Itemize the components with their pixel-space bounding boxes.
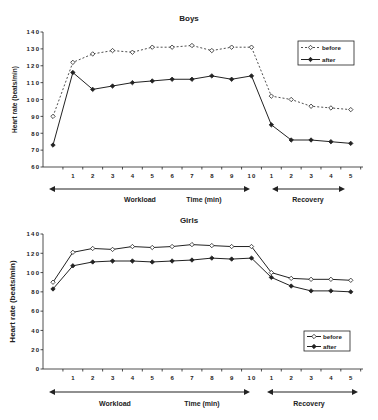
y-tick-label: 6 0 <box>31 164 40 170</box>
x-tick-label: 2 <box>290 375 294 381</box>
y-tick-label: 4 0 <box>31 328 40 334</box>
y-tick-label: 8 0 <box>31 131 40 137</box>
y-axis-label: Heart rate (beats/min) <box>8 260 17 343</box>
x-tick-label: 2 <box>91 173 95 179</box>
x-tick-label: 8 <box>210 375 214 381</box>
y-tick-label: 1 0 0 <box>27 97 40 103</box>
x-tick-label: 3 <box>309 375 313 381</box>
x-tick-label: 5 <box>349 375 353 381</box>
x-tick-label: 4 <box>131 173 135 179</box>
x-tick-label: 1 <box>270 375 274 381</box>
series-after <box>51 256 353 294</box>
y-tick-label: 9 0 <box>31 114 40 120</box>
x-tick-label: 7 <box>190 375 194 381</box>
y-tick-label: 1 4 0 <box>27 231 40 237</box>
x-tick-label: 3 <box>111 375 115 381</box>
girls-chart: Girls02 04 06 08 01 0 01 2 01 4 0Heart r… <box>8 216 363 408</box>
legend: beforeafter <box>298 41 354 65</box>
x-tick-label: 1 0 <box>248 375 257 381</box>
time-axis-label: Time (min) <box>186 196 221 204</box>
figure: Boys6 07 08 09 01 0 01 1 01 2 01 3 01 4 … <box>0 0 378 420</box>
y-tick-label: 1 4 0 <box>27 29 40 35</box>
x-tick-label: 7 <box>190 173 194 179</box>
legend: beforeafter <box>304 331 350 351</box>
workload-label: Workload <box>124 196 156 203</box>
y-tick-label: 1 2 0 <box>27 63 40 69</box>
y-tick-label: 1 0 0 <box>27 270 40 276</box>
x-tick-label: 4 <box>329 173 333 179</box>
legend-label-after: after <box>322 56 336 63</box>
x-tick-label: 3 <box>111 173 115 179</box>
y-tick-label: 1 2 0 <box>27 251 40 257</box>
x-tick-label: 9 <box>230 375 234 381</box>
x-tick-label: 4 <box>131 375 135 381</box>
x-tick-label: 4 <box>329 375 333 381</box>
y-tick-label: 1 3 0 <box>27 46 40 52</box>
x-tick-label: 5 <box>151 173 155 179</box>
x-tick-label: 1 <box>270 173 274 179</box>
x-tick-label: 2 <box>290 173 294 179</box>
x-tick-label: 1 <box>71 173 75 179</box>
y-tick-label: 2 0 <box>31 347 40 353</box>
series-before <box>51 242 353 284</box>
x-tick-label: 1 0 <box>248 173 257 179</box>
y-tick-label: 6 0 <box>31 308 40 314</box>
series-after <box>51 70 353 147</box>
legend-label-before: before <box>323 333 342 340</box>
x-tick-label: 8 <box>210 173 214 179</box>
x-tick-label: 9 <box>230 173 234 179</box>
chart-title: Boys <box>179 14 199 23</box>
recovery-label: Recovery <box>292 196 324 204</box>
recovery-arrow <box>267 389 358 395</box>
x-tick-label: 6 <box>170 173 174 179</box>
time-axis-label: Time (min) <box>184 400 219 408</box>
boys-chart: Boys6 07 08 09 01 0 01 1 01 2 01 3 01 4 … <box>11 14 363 204</box>
chart-title: Girls <box>180 216 199 225</box>
x-tick-label: 3 <box>309 173 313 179</box>
workload-arrow <box>49 389 250 395</box>
y-tick-label: 8 0 <box>31 289 40 295</box>
recovery-arrow <box>272 186 345 192</box>
x-tick-label: 2 <box>91 375 95 381</box>
x-tick-label: 5 <box>349 173 353 179</box>
x-tick-label: 5 <box>151 375 155 381</box>
y-tick-label: 1 1 0 <box>27 80 40 86</box>
y-tick-label: 7 0 <box>31 147 40 153</box>
y-tick-label: 0 <box>36 366 40 372</box>
x-tick-label: 6 <box>170 375 174 381</box>
x-tick-label: 1 <box>71 375 75 381</box>
legend-label-before: before <box>322 44 341 51</box>
workload-label: Workload <box>99 400 131 407</box>
y-axis-label: Heart rate (beats/min) <box>11 66 19 133</box>
recovery-label: Recovery <box>293 400 325 408</box>
legend-label-after: after <box>323 343 337 350</box>
workload-arrow <box>49 186 250 192</box>
